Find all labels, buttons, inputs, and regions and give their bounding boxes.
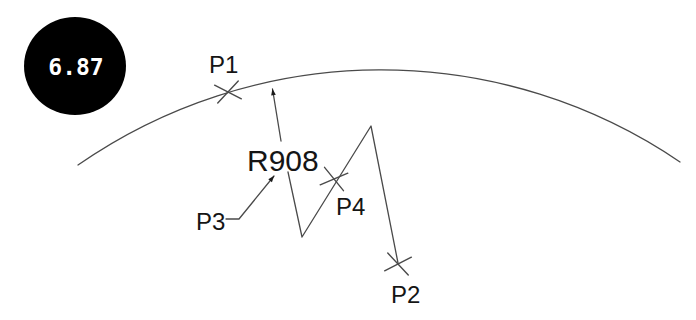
arc-curve — [78, 70, 680, 165]
p2-cross-marker-icon — [385, 253, 412, 275]
radius-leader-arrow — [273, 89, 282, 141]
p1-cross-stroke — [215, 81, 242, 103]
p3-leader-arrow — [226, 176, 274, 219]
p4-label: P4 — [336, 193, 365, 220]
value-badge: 6.87 — [24, 17, 126, 115]
cad-drawing-canvas: P1 P2 P3 P4 R908 6.87 — [0, 0, 696, 320]
badge-value: 6.87 — [48, 54, 103, 80]
p1-cross-marker-icon — [215, 81, 242, 103]
p2-label: P2 — [391, 281, 420, 308]
p3-label: P3 — [196, 208, 225, 235]
radius-dimension-label: R908 — [247, 144, 319, 177]
cad-drawing: P1 P2 P3 P4 R908 6.87 — [0, 0, 696, 320]
p2-cross-stroke — [385, 253, 412, 275]
p1-label: P1 — [209, 51, 238, 78]
